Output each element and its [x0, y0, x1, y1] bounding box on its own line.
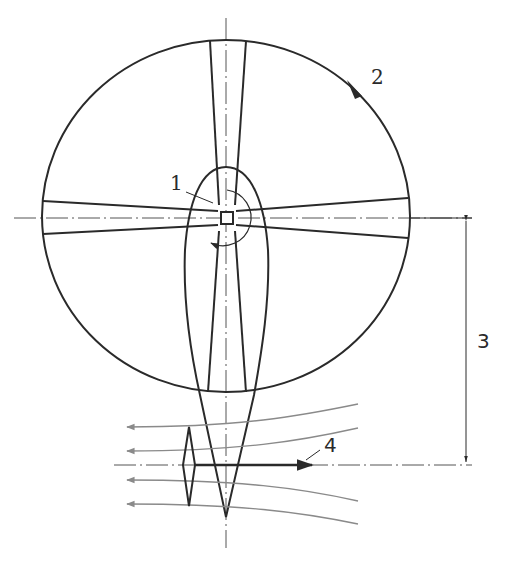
moment-arm-dimension	[410, 218, 472, 462]
label-1: 1	[170, 171, 183, 195]
label-4: 4	[324, 433, 337, 457]
blade-bottom-left-edge	[208, 231, 219, 392]
leader-line-1	[186, 192, 213, 203]
helicopter-rotor-diagram: 1 2 3 4	[0, 0, 511, 568]
blade-bottom-right-edge	[235, 231, 246, 392]
rotor-hub	[221, 212, 233, 224]
blade-top-right-edge	[235, 41, 246, 205]
label-3: 3	[477, 329, 490, 353]
blade-top-left-edge	[210, 41, 219, 205]
label-2: 2	[371, 65, 384, 89]
blade-right-bottom-edge	[236, 225, 408, 238]
airflow-arrow	[127, 404, 358, 427]
rotor-rotation-arrowhead	[347, 80, 362, 99]
airflow-arrow	[127, 504, 358, 524]
airflow-arrow	[127, 480, 358, 501]
leader-line-4	[306, 450, 320, 460]
blade-left-bottom-edge	[43, 225, 218, 234]
tail-rotor	[183, 427, 195, 506]
